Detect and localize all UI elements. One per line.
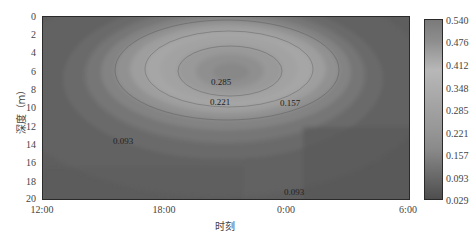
y-tick-2: 2 [18, 30, 36, 40]
contour-plot-area: 0.285 0.221 0.157 0.093 0.093 [42, 16, 410, 200]
colorbar-tick-0285: 0.285 [446, 106, 469, 116]
contour-label-0157: 0.157 [280, 98, 301, 108]
colorbar-tick-0412: 0.412 [446, 61, 469, 71]
y-tick-4: 4 [18, 48, 36, 58]
x-tick-0600: 6:00 [399, 205, 417, 215]
x-tick-0000: 0:00 [277, 205, 295, 215]
contour-label-0285: 0.285 [211, 77, 232, 87]
colorbar [424, 19, 443, 200]
y-tick-14: 14 [18, 140, 36, 150]
colorbar-tick-0093: 0.093 [446, 174, 469, 184]
y-tick-16: 16 [18, 158, 36, 168]
contour-label-0093-left: 0.093 [113, 136, 134, 146]
colorbar-gradient [425, 20, 442, 199]
contour-label-0221: 0.221 [210, 97, 230, 107]
y-tick-20: 20 [18, 194, 36, 204]
x-tick-1200: 12:00 [31, 205, 54, 215]
x-axis-label: 时刻 [215, 218, 235, 232]
x-tick-1800: 18:00 [153, 205, 176, 215]
y-tick-0: 0 [18, 12, 36, 22]
y-tick-6: 6 [18, 67, 36, 77]
colorbar-tick-0540: 0.540 [446, 16, 469, 26]
colorbar-tick-0029: 0.029 [446, 196, 469, 206]
y-axis-label: 深度（m） [13, 80, 28, 140]
colorbar-tick-0476: 0.476 [446, 38, 469, 48]
colorbar-tick-0348: 0.348 [446, 84, 469, 94]
contour-label-0093-bottom: 0.093 [284, 187, 305, 197]
y-tick-18: 18 [18, 177, 36, 187]
colorbar-tick-0221: 0.221 [446, 129, 469, 139]
colorbar-tick-0157: 0.157 [446, 151, 469, 161]
contour-field: 0.285 0.221 0.157 0.093 0.093 [43, 17, 409, 199]
